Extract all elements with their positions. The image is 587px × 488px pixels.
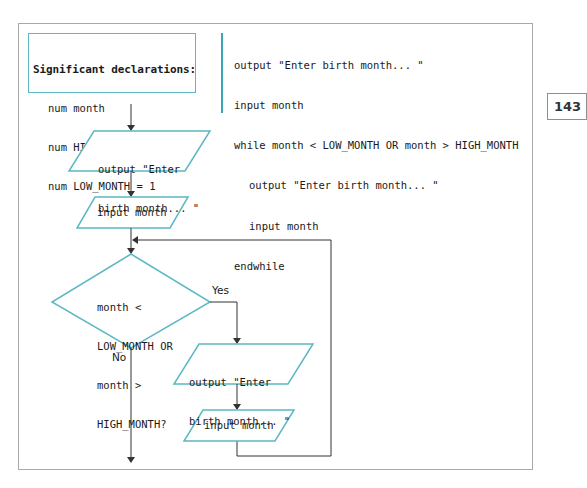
input-1-text: input month [97, 206, 167, 219]
decision-line1: month < [97, 301, 173, 314]
decision-line4: HIGH_MONTH? [97, 418, 173, 431]
decision-text: month < LOW_MONTH OR month > HIGH_MONTH? [97, 275, 173, 444]
decision-line2: LOW_MONTH OR [97, 340, 173, 353]
no-label: No [112, 351, 126, 363]
yes-label: Yes [212, 284, 229, 296]
output-2-line1: output "Enter [189, 376, 290, 389]
yes-branch-line [210, 302, 237, 343]
decision-line3: month > [97, 379, 173, 392]
input-2-text: input month [204, 419, 274, 432]
output-1-line1: output "Enter [98, 163, 199, 176]
